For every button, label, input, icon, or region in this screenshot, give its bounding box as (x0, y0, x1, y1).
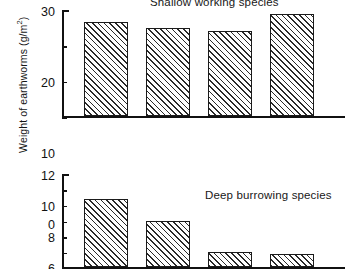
bar-top-2 (146, 28, 190, 117)
bar-group-bottom (64, 174, 345, 267)
y-tick-label-bottom-12: 12 (41, 170, 55, 183)
annotation-deep-burrowing-species: Deep burrowing species (205, 189, 332, 201)
panel-shallow-working-species: 0102030 Shallow working species (0, 0, 345, 128)
y-tick-bottom-12: 12 (62, 175, 67, 176)
x-axis-baseline-top (62, 116, 345, 118)
earthworm-weight-figure: Weight of earthworms (g/m2) 0102030 Shal… (0, 0, 345, 269)
panel-deep-burrowing-species: 024681012 Deep burrowing species (0, 160, 345, 269)
bar-bottom-4 (270, 254, 314, 267)
y-tick-top-20: 20 (62, 46, 67, 47)
y-tick-label-bottom-8: 8 (48, 232, 55, 245)
y-tick-label-top-10: 10 (41, 147, 55, 160)
bar-group-top (64, 10, 345, 116)
y-tick-label-top-20: 20 (41, 76, 55, 89)
y-tick-bottom-6: 6 (62, 222, 67, 223)
y-tick-label-top-30: 30 (41, 6, 55, 19)
y-tick-bottom-4: 4 (62, 237, 67, 238)
bar-top-3 (208, 31, 252, 116)
bar-top-4 (270, 14, 314, 117)
bar-bottom-2 (146, 221, 190, 268)
y-tick-top-0: 0 (62, 117, 67, 118)
y-tick-bottom-2: 2 (62, 253, 67, 254)
bar-top-1 (84, 22, 128, 116)
annotation-shallow-working-species: Shallow working species (150, 0, 279, 8)
bar-bottom-1 (84, 199, 128, 267)
y-tick-top-30: 30 (62, 11, 67, 12)
y-tick-label-bottom-6: 6 (48, 263, 55, 269)
y-tick-top-10: 10 (62, 82, 67, 83)
bar-bottom-3 (208, 252, 252, 268)
plot-area-top: 0102030 (62, 10, 345, 118)
y-tick-bottom-10: 10 (62, 190, 67, 191)
y-tick-bottom-8: 8 (62, 206, 67, 207)
y-tick-label-bottom-10: 10 (41, 201, 55, 214)
